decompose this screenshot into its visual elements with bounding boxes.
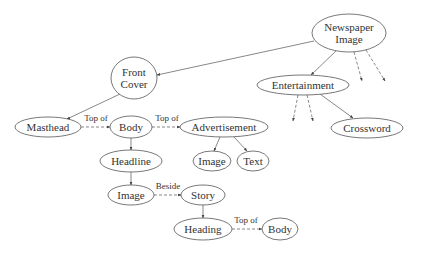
edge-newspaper-image-to-unnamed-2	[366, 50, 385, 81]
node-masthead: Masthead	[15, 117, 81, 137]
edge-body-top-to-advertisement: Top of	[152, 113, 180, 127]
node-entertainment: Entertainment	[257, 75, 349, 95]
edge-line	[234, 137, 247, 151]
nodes-layer: NewspaperImageFrontCoverEntertainmentMas…	[15, 14, 403, 240]
newspaper-layout-diagram: Top ofTop ofBesideTop of NewspaperImageF…	[0, 0, 421, 257]
node-crossword: Crossword	[331, 118, 403, 138]
edge-entertainment-to-unnamed-3	[293, 95, 298, 121]
node-label: Advertisement	[192, 121, 257, 133]
edge-masthead-to-body-top: Top of	[81, 113, 110, 127]
edge-newspaper-image-to-unnamed-1	[354, 52, 362, 81]
edge-newspaper-image-to-entertainment	[311, 51, 336, 75]
node-label: Heading	[184, 223, 222, 235]
node-story: Story	[181, 185, 225, 205]
node-label: Text	[243, 155, 262, 167]
node-label: Crossword	[343, 122, 391, 134]
edge-image-to-story: Beside	[154, 181, 181, 195]
node-label: Image	[198, 155, 226, 167]
edge-line	[307, 95, 313, 121]
edge-heading-to-body-bottom: Top of	[232, 215, 262, 229]
node-body-bottom: Body	[262, 218, 298, 240]
node-label: Entertainment	[272, 79, 334, 91]
edge-line	[293, 95, 298, 121]
node-ad-image: Image	[193, 151, 231, 171]
node-label: Story	[191, 189, 215, 201]
edge-label: Top of	[234, 215, 258, 225]
edge-advertisement-to-ad-text	[234, 137, 247, 151]
diagram-canvas: Top ofTop ofBesideTop of NewspaperImageF…	[0, 0, 421, 257]
edge-newspaper-image-to-front-cover	[157, 41, 314, 75]
edge-advertisement-to-ad-image	[214, 137, 220, 151]
node-advertisement: Advertisement	[180, 117, 268, 137]
node-ad-text: Text	[237, 151, 269, 171]
edge-label: Top of	[84, 113, 108, 123]
edge-entertainment-to-crossword	[320, 94, 353, 118]
edge-entertainment-to-unnamed-4	[307, 95, 313, 121]
node-newspaper-image: NewspaperImage	[312, 14, 386, 52]
edge-label: Top of	[155, 113, 179, 123]
node-label: Headline	[111, 155, 151, 167]
node-label: Image	[117, 189, 145, 201]
edge-line	[311, 51, 336, 75]
edge-line	[320, 94, 353, 118]
node-label: Front	[122, 66, 146, 78]
edge-label: Beside	[156, 181, 181, 191]
node-label: Masthead	[27, 121, 70, 133]
node-label: Newspaper	[324, 21, 374, 33]
edge-line	[354, 52, 362, 81]
node-heading: Heading	[174, 218, 232, 240]
node-front-cover: FrontCover	[111, 57, 157, 99]
edge-line	[366, 50, 385, 81]
node-headline: Headline	[100, 150, 162, 172]
node-label: Cover	[121, 78, 148, 90]
node-body-top: Body	[110, 116, 152, 138]
edge-line	[157, 41, 314, 75]
node-label: Body	[119, 121, 143, 133]
node-label: Image	[335, 33, 363, 45]
node-label: Body	[268, 223, 292, 235]
node-image: Image	[108, 185, 154, 205]
edge-line	[214, 137, 220, 151]
